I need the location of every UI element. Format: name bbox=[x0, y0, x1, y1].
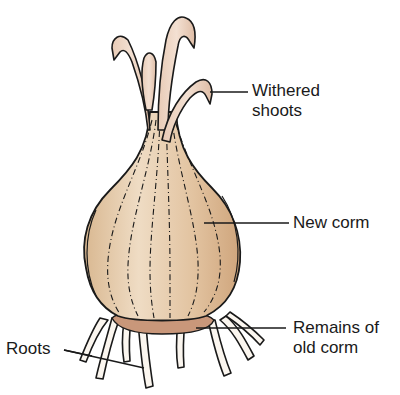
withered-shoots bbox=[112, 17, 212, 142]
label-roots: Roots bbox=[6, 339, 50, 359]
label-new-corm: New corm bbox=[293, 213, 370, 233]
shoot bbox=[142, 53, 156, 110]
label-remains-old-corm: Remains of old corm bbox=[293, 318, 379, 358]
label-withered-shoots: Withered shoots bbox=[252, 81, 320, 121]
